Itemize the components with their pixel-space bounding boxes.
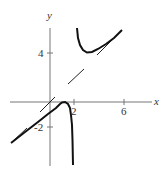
curve-right-branch: [77, 28, 122, 53]
tick-label-y-4: 4: [38, 48, 44, 59]
tick-label-x-2: 2: [71, 106, 77, 117]
x-axis-label: x: [154, 96, 159, 107]
tick-label-y-neg2: -2: [34, 122, 43, 133]
curve-left-branch: [11, 102, 73, 165]
tick-label-x-6: 6: [121, 106, 127, 117]
slant-asymptote: [12, 40, 112, 142]
plot-canvas: [0, 0, 167, 176]
y-axis-label: y: [47, 10, 52, 21]
